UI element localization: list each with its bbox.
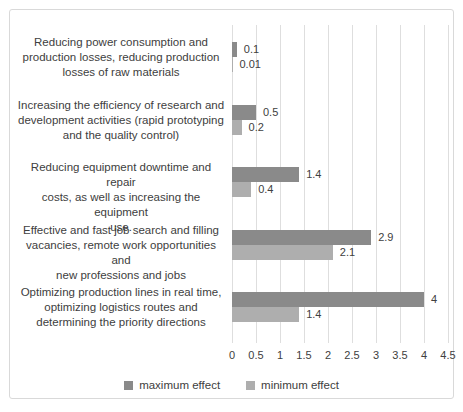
x-axis-tick: 3 xyxy=(373,349,379,361)
bar-group: 1.40.4 xyxy=(232,167,449,197)
x-axis-tick: 4 xyxy=(421,349,427,361)
bar-minimum xyxy=(232,245,333,260)
x-axis-tick: 0.5 xyxy=(248,349,263,361)
bar-value-label: 0.1 xyxy=(244,42,259,57)
legend: maximum effectminimum effect xyxy=(10,376,453,394)
bar-maximum xyxy=(232,42,237,57)
category-label: Increasing the efficiency of research an… xyxy=(16,98,226,143)
bar-group: 41.4 xyxy=(232,292,449,322)
legend-swatch-icon xyxy=(124,381,133,390)
legend-item: minimum effect xyxy=(246,379,339,391)
bar-maximum xyxy=(232,105,256,120)
bar-minimum xyxy=(232,120,242,135)
bar-maximum xyxy=(232,230,371,245)
category-label: Reducing power consumption andproduction… xyxy=(16,35,226,80)
legend-swatch-icon xyxy=(246,381,255,390)
x-axis-tick: 4.5 xyxy=(440,349,455,361)
bar-maximum xyxy=(232,167,299,182)
bar-value-label: 2.9 xyxy=(378,230,393,245)
x-axis-tick: 1.5 xyxy=(296,349,311,361)
bar-group: 2.92.1 xyxy=(232,230,449,260)
legend-item: maximum effect xyxy=(124,379,220,391)
category-label: Effective and fast job search and fillin… xyxy=(16,223,226,283)
bar-value-label: 0.01 xyxy=(239,57,260,72)
bar-minimum xyxy=(232,307,299,322)
x-axis-tick: 2 xyxy=(325,349,331,361)
legend-label: maximum effect xyxy=(139,379,220,391)
x-axis-tick: 0 xyxy=(229,349,235,361)
bar-group: 0.10.01 xyxy=(232,42,449,72)
bar-maximum xyxy=(232,292,424,307)
bar-value-label: 0.4 xyxy=(258,182,273,197)
bar-value-label: 4 xyxy=(431,292,437,307)
x-axis-tick: 2.5 xyxy=(344,349,359,361)
bar-value-label: 1.4 xyxy=(306,307,321,322)
bar-value-label: 1.4 xyxy=(306,167,321,182)
legend-label: minimum effect xyxy=(261,379,339,391)
chart-frame: Reducing power consumption andproduction… xyxy=(9,9,454,399)
plot-area: 0.10.010.50.21.40.42.92.141.4 xyxy=(232,25,449,343)
bar-minimum xyxy=(232,57,233,72)
bar-value-label: 2.1 xyxy=(340,245,355,260)
bar-value-label: 0.5 xyxy=(263,105,278,120)
bar-value-label: 0.2 xyxy=(249,120,264,135)
bar-minimum xyxy=(232,182,251,197)
x-axis: 00.511.522.533.544.5 xyxy=(232,349,449,363)
x-axis-tick: 3.5 xyxy=(392,349,407,361)
bar-group: 0.50.2 xyxy=(232,105,449,135)
category-label: Optimizing production lines in real time… xyxy=(16,285,226,330)
x-axis-tick: 1 xyxy=(277,349,283,361)
